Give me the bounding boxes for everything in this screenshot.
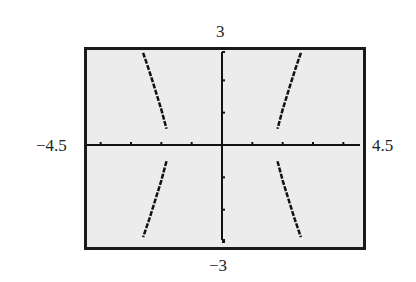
hyperbola-branch bbox=[278, 53, 301, 129]
hyperbola-branch bbox=[143, 161, 166, 237]
plot-area bbox=[0, 0, 416, 282]
hyperbola-branch bbox=[278, 161, 301, 237]
hyperbola-branch bbox=[143, 53, 166, 129]
